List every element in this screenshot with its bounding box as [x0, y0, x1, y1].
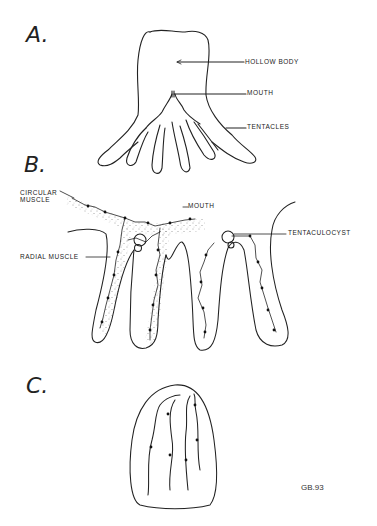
- panel-b-muscles: [60, 191, 295, 350]
- tentacle-3: [172, 122, 190, 172]
- tentaculocyst-2: [222, 231, 234, 243]
- tentacle-1: [127, 128, 148, 165]
- c-nerve-1: [148, 395, 180, 495]
- c-nerve-3: [185, 396, 190, 490]
- c-nerve-2: [170, 400, 175, 490]
- tentaculocyst-2-base: [228, 242, 234, 248]
- tentacle-2: [152, 125, 165, 173]
- drawing-svg: [0, 0, 377, 526]
- radial-muscle-band-1: [100, 225, 132, 335]
- manubrium: [146, 94, 172, 128]
- body-right-outline: [150, 30, 256, 163]
- panel-c-tentacle: [130, 385, 217, 509]
- panel-a-medusa: [98, 30, 256, 173]
- diagram-canvas: A. B. C. HOLLOW BODY MOUTH TENTACLES CIR…: [0, 0, 377, 526]
- leader-circular-muscle: [60, 191, 74, 198]
- tentacle-5: [198, 124, 218, 150]
